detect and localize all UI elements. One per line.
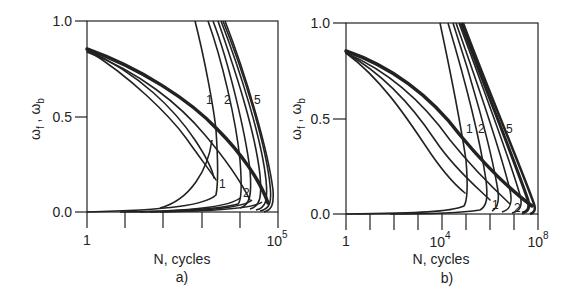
y-tick-1.0: 1.0 — [311, 15, 331, 31]
svg-text:5: 5 — [254, 93, 261, 107]
panel-a-frame — [87, 21, 278, 212]
y-axis-label: ωf , ωb — [288, 98, 307, 140]
x-tick-1: 1 — [83, 232, 91, 248]
x-axis-label: N, cycles — [413, 251, 470, 267]
x-axis-label: N, cycles — [154, 251, 211, 267]
svg-text:2: 2 — [514, 201, 521, 215]
x-tick-1e4: 104 — [429, 230, 451, 250]
svg-text:1: 1 — [219, 177, 226, 191]
svg-text:1: 1 — [206, 93, 213, 107]
x-tick-1e8: 108 — [527, 230, 549, 250]
panel-a: 1.0 0.5 0.0 1 105 N, cycles a) ωf , ωb — [27, 13, 288, 285]
wf-curves-a — [87, 21, 273, 212]
y-axis-label: ωf , ωb — [27, 98, 46, 140]
x-tick-1e5: 105 — [266, 229, 288, 249]
svg-text:2: 2 — [224, 93, 231, 107]
y-tick-1.0: 1.0 — [53, 13, 73, 29]
panel-b: 1.0 0.5 0.0 1 104 108 N, cycles b) ωf , … — [288, 15, 549, 286]
svg-text:1: 1 — [492, 198, 499, 212]
y-tick-0.0: 0.0 — [311, 206, 331, 222]
svg-text:2: 2 — [243, 186, 250, 200]
y-tick-0.0: 0.0 — [53, 204, 73, 220]
panel-label-b: b) — [441, 270, 453, 286]
y-tick-0.5: 0.5 — [311, 111, 331, 127]
figure: 1.0 0.5 0.0 1 105 N, cycles a) ωf , ωb — [0, 0, 575, 305]
svg-text:1: 1 — [466, 122, 473, 136]
svg-text:2: 2 — [478, 122, 485, 136]
y-tick-0.5: 0.5 — [53, 109, 73, 125]
x-tick-1: 1 — [342, 233, 350, 249]
svg-text:5: 5 — [506, 122, 513, 136]
panel-label-a: a) — [176, 269, 188, 285]
